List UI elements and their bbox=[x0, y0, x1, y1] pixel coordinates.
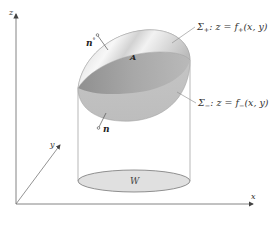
y-axis bbox=[16, 145, 60, 204]
x-axis-label: x bbox=[251, 193, 256, 201]
y-axis-label: y bbox=[50, 141, 55, 149]
upper-eq-text: : z = f bbox=[209, 21, 238, 32]
upper-sigma: Σ bbox=[197, 21, 204, 32]
lower-eq-args: (x, y) bbox=[244, 97, 268, 108]
lower-surface-equation: Σ−: z = f−(x, y) bbox=[198, 98, 269, 110]
z-axis-label: z bbox=[9, 9, 13, 17]
normal-top-sup: ° bbox=[93, 36, 96, 43]
figure-caption bbox=[0, 213, 280, 220]
normal-bottom-letter: n bbox=[103, 124, 110, 134]
lower-eq-text: : z = f bbox=[210, 97, 239, 108]
upper-eq-args: (x, y) bbox=[243, 21, 267, 32]
base-region-label: W bbox=[130, 177, 139, 186]
normal-top-label: n° bbox=[86, 37, 96, 48]
upper-surface-equation: Σ+: z = f+(x, y) bbox=[197, 22, 268, 34]
normal-top-head-icon bbox=[96, 34, 99, 37]
volume-label-a: A bbox=[130, 53, 136, 61]
normal-bottom-label: n bbox=[103, 125, 110, 134]
normal-bottom-head-icon bbox=[97, 127, 100, 130]
upper-leader-line bbox=[172, 27, 195, 43]
diagram-canvas: z x y Σ+: z = f+(x, y) Σ−: z = f−(x, y) … bbox=[0, 0, 280, 226]
lower-sigma: Σ bbox=[198, 97, 205, 108]
lower-leader-line bbox=[177, 92, 196, 103]
